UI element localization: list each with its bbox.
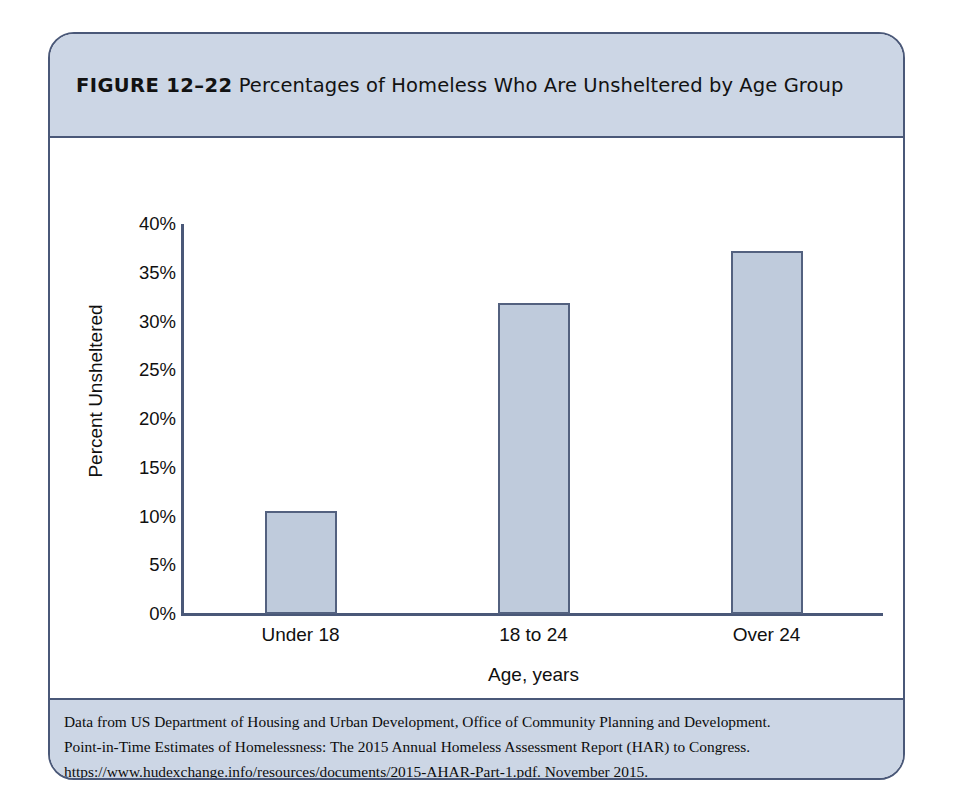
y-axis-tick: 0% (100, 603, 176, 625)
bar (498, 303, 570, 614)
x-axis-label: Age, years (184, 664, 883, 686)
y-axis-tick: 5% (100, 554, 176, 576)
figure-title-text: Percentages of Homeless Who Are Unshelte… (239, 74, 844, 97)
chart-plot-area: Percent Unsheltered 0%5%10%15%20%25%30%3… (50, 138, 903, 702)
y-axis-tick-labels: 0%5%10%15%20%25%30%35%40% (100, 138, 176, 702)
y-axis-tick: 20% (100, 408, 176, 430)
figure-title-band: FIGURE 12–22 Percentages of Homeless Who… (50, 34, 903, 138)
y-axis-tick: 10% (100, 506, 176, 528)
x-axis-tick: 18 to 24 (499, 624, 568, 646)
source-citation-band: Data from US Department of Housing and U… (50, 698, 903, 778)
y-axis-tick: 30% (100, 311, 176, 333)
y-axis-tick: 15% (100, 457, 176, 479)
bar-series (184, 224, 883, 614)
figure-frame: FIGURE 12–22 Percentages of Homeless Who… (48, 32, 905, 780)
bar (731, 251, 803, 614)
y-axis-tick: 40% (100, 213, 176, 235)
source-citation-line: Data from US Department of Housing and U… (64, 709, 885, 734)
source-citation-line: https://www.hudexchange.info/resources/d… (64, 759, 885, 780)
bar (265, 511, 337, 614)
source-citation-line: Point-in-Time Estimates of Homelessness:… (64, 734, 885, 759)
x-axis-tick: Under 18 (261, 624, 339, 646)
page-title: FIGURE 12–22 Percentages of Homeless Who… (50, 74, 858, 97)
figure-number: FIGURE 12–22 (76, 74, 232, 97)
x-axis-tick-labels: Under 1818 to 24Over 24 (184, 624, 883, 654)
y-axis-tick: 35% (100, 262, 176, 284)
x-axis-tick: Over 24 (733, 624, 801, 646)
y-axis-tick: 25% (100, 359, 176, 381)
